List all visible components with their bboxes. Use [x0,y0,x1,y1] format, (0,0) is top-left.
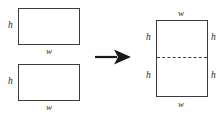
rectangle-1 [18,8,80,45]
right-arrow-icon [95,49,131,65]
combined-rectangle-height-label-top-left: h [146,33,151,43]
rectangle-combination-diagram: h w h w w w h h h h [0,0,222,114]
rectangle-2 [18,64,80,101]
combined-rectangle-width-label-top: w [178,9,184,18]
combined-rectangle-width-label-bottom: w [178,100,184,109]
rectangle-2-height-label: h [8,77,13,87]
combined-rectangle-height-label-bottom-left: h [146,71,151,81]
rectangle-1-height-label: h [8,21,13,31]
combined-rectangle [156,20,208,97]
rectangle-2-width-label: w [46,103,52,112]
dashed-divider-line [157,57,207,58]
combined-rectangle-height-label-top-right: h [211,33,216,43]
rectangle-1-width-label: w [46,47,52,56]
combined-rectangle-height-label-bottom-right: h [211,71,216,81]
